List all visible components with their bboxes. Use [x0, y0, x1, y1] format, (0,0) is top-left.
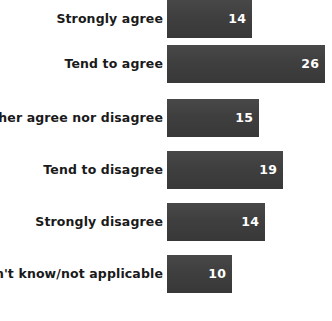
bar[interactable]: 14 [167, 203, 265, 241]
bar[interactable]: 10 [167, 255, 232, 293]
bar-value-label: 26 [301, 45, 319, 83]
bar[interactable]: 15 [167, 99, 259, 137]
bar-row: Neither agree nor disagree 15 [0, 99, 332, 137]
bar-row: Don't know/not applicable 10 [0, 255, 332, 293]
category-label: Neither agree nor disagree [0, 99, 163, 137]
category-label: Don't know/not applicable [0, 255, 163, 293]
bar-row: Strongly disagree 14 [0, 203, 332, 241]
category-label: Tend to disagree [43, 151, 163, 189]
bar-value-label: 15 [235, 99, 253, 137]
category-label: Strongly disagree [35, 203, 163, 241]
bar-value-label: 14 [241, 203, 259, 241]
category-label: Strongly agree [56, 0, 163, 38]
bar-value-label: 14 [228, 0, 246, 38]
bar-row: Strongly agree 14 [0, 0, 332, 38]
category-label: Tend to agree [64, 45, 163, 83]
bar[interactable]: 19 [167, 151, 283, 189]
bar[interactable]: 14 [167, 0, 252, 38]
bar[interactable]: 26 [167, 45, 325, 83]
bar-row: Tend to disagree 19 [0, 151, 332, 189]
bar-row: Tend to agree 26 [0, 45, 332, 83]
horizontal-bar-chart: Strongly agree 14 Tend to agree 26 Neith… [0, 0, 332, 321]
bar-value-label: 10 [208, 255, 226, 293]
bar-value-label: 19 [259, 151, 277, 189]
